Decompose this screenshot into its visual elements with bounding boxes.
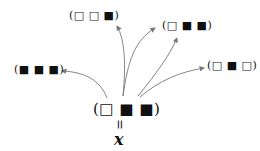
variable-x: x — [114, 130, 124, 149]
arrow-to-right — [140, 68, 204, 97]
node-left: (■ ■ ■) — [14, 64, 64, 76]
arrow-to-top-left — [117, 26, 125, 96]
node-center: (□ ■ ■) — [93, 101, 160, 117]
node-top-right: (□ ■ ■) — [162, 20, 212, 32]
arrow-to-top-right — [123, 28, 155, 96]
arrow-to-top-right-2 — [138, 38, 177, 96]
arrow-to-left — [62, 71, 107, 98]
node-right: (□ ■ □) — [207, 60, 257, 72]
node-top-left: (□ □ ■) — [69, 10, 119, 22]
equals-sign: = — [113, 119, 128, 130]
